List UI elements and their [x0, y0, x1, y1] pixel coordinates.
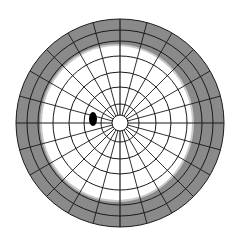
- blind-spot-marker: [89, 112, 97, 126]
- grid-ring: [112, 115, 128, 131]
- blind-spot: [89, 112, 97, 126]
- visual-field-chart: [0, 0, 240, 247]
